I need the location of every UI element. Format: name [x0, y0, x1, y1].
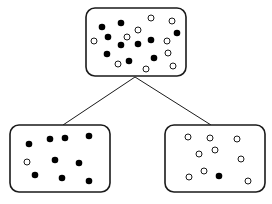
open-point — [24, 159, 30, 165]
filled-point — [151, 55, 158, 62]
node-right-child — [165, 125, 265, 192]
open-point — [165, 50, 171, 56]
filled-point — [52, 157, 59, 164]
filled-point — [216, 173, 223, 180]
open-point — [196, 151, 202, 157]
node-parent — [86, 8, 186, 76]
node-left-child — [10, 125, 110, 192]
open-point — [245, 178, 251, 184]
open-point — [135, 27, 141, 33]
filled-point — [118, 20, 125, 27]
filled-point — [135, 41, 142, 48]
filled-point — [105, 34, 112, 41]
open-point — [185, 134, 191, 140]
filled-point — [86, 178, 93, 185]
filled-point — [32, 172, 39, 179]
open-point — [148, 15, 154, 21]
filled-point — [104, 51, 111, 58]
filled-point — [62, 135, 69, 142]
open-point — [124, 34, 130, 40]
open-point — [212, 147, 218, 153]
node-box — [10, 125, 110, 192]
filled-point — [59, 175, 66, 182]
open-point — [207, 135, 213, 141]
open-point — [186, 174, 192, 180]
filled-point — [148, 37, 155, 44]
filled-point — [118, 42, 125, 49]
open-point — [91, 38, 97, 44]
filled-point — [47, 136, 54, 143]
filled-point — [26, 141, 33, 148]
open-point — [164, 38, 170, 44]
open-point — [234, 136, 240, 142]
open-point — [115, 61, 121, 67]
open-point — [169, 18, 175, 24]
edge-parent-to-left-child — [63, 77, 135, 125]
edge-parent-to-right-child — [135, 77, 211, 125]
open-point — [170, 63, 176, 69]
open-point — [238, 156, 244, 162]
tree-split-diagram — [0, 0, 272, 204]
open-point — [201, 168, 207, 174]
edges — [63, 77, 211, 125]
open-point — [143, 66, 149, 72]
filled-point — [126, 58, 133, 65]
nodes — [10, 8, 265, 192]
filled-point — [174, 30, 181, 37]
filled-point — [86, 133, 93, 140]
filled-point — [76, 160, 83, 167]
filled-point — [99, 24, 106, 31]
